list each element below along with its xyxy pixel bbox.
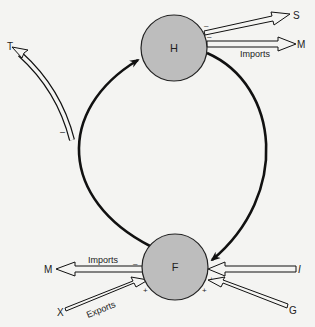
savings-label: S: [293, 10, 300, 21]
exports-label: X: [57, 307, 64, 318]
households-node: H: [141, 15, 207, 81]
government-sign: +: [202, 286, 207, 295]
savings-leakage-arrow: – S: [204, 10, 300, 35]
circular-flow-loop: [79, 53, 266, 260]
taxes-label: T: [7, 41, 13, 52]
firm-imports-caption: Imports: [88, 255, 119, 265]
savings-sign: –: [204, 21, 209, 30]
household-imports-caption: Imports: [240, 49, 271, 59]
exports-caption: Exports: [85, 299, 117, 320]
flow-arrow-f-to-h: [79, 60, 150, 246]
household-imports-leakage-arrow: – M Imports: [207, 32, 305, 59]
flow-arrow-h-to-f: [207, 53, 266, 260]
exports-injection-arrow: + X Exports: [57, 277, 148, 320]
firms-label: F: [172, 261, 179, 273]
circular-flow-diagram: – T – S – M Imports Imports – M + X Expo…: [0, 0, 315, 327]
household-imports-sign: –: [207, 32, 212, 41]
taxes-leakage-arrow: – T: [7, 41, 72, 140]
firm-imports-sign: –: [133, 259, 138, 268]
investment-label: I: [298, 264, 301, 275]
households-label: H: [170, 42, 178, 54]
firm-imports-leakage-arrow: Imports – M: [44, 255, 143, 276]
firm-imports-label: M: [44, 264, 52, 275]
government-label: G: [289, 305, 297, 316]
firms-node: F: [142, 234, 208, 300]
taxes-sign: –: [60, 127, 65, 137]
exports-sign: +: [143, 286, 148, 295]
government-injection-arrow: + G: [202, 277, 297, 316]
household-imports-label: M: [297, 39, 305, 50]
